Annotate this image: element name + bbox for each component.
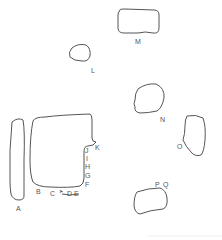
- label-a: A: [16, 205, 21, 212]
- label-c: C: [50, 190, 55, 197]
- label-g: G: [85, 172, 90, 179]
- label-h: H: [85, 163, 90, 170]
- label-q: Q: [163, 181, 168, 188]
- shape-n: [134, 84, 164, 113]
- shape-a: [10, 119, 25, 200]
- label-j: J: [85, 147, 89, 154]
- shape-pq: [134, 188, 167, 214]
- diagram-canvas: [0, 0, 222, 240]
- label-n: N: [160, 116, 165, 123]
- label-b: B: [36, 188, 41, 195]
- label-d: D: [67, 190, 72, 197]
- label-m: M: [135, 38, 141, 45]
- shape-l: [69, 44, 90, 61]
- label-f: F: [85, 181, 89, 188]
- label-e: E: [74, 190, 79, 197]
- label-k: K: [95, 144, 100, 151]
- label-i: I: [86, 155, 88, 162]
- label-p: P: [155, 181, 160, 188]
- label-l: L: [91, 67, 95, 74]
- arrow-icon: ➤: [59, 189, 63, 194]
- shape-m: [118, 9, 159, 33]
- label-o: O: [177, 143, 182, 150]
- shape-o: [183, 115, 205, 155]
